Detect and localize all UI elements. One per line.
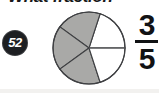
worksheet-question-clip: What fraction 52 3 5	[0, 0, 159, 93]
fraction-denominator: 5	[134, 45, 159, 73]
fraction-numerator: 3	[134, 11, 159, 39]
question-number-label: 52	[3, 31, 27, 55]
pie-chart	[52, 11, 126, 85]
question-number-badge: 52	[3, 31, 27, 55]
answer-fraction: 3 5	[134, 11, 159, 73]
pie-chart-svg	[52, 11, 126, 85]
scan-edge-artifact	[0, 89, 159, 93]
page-title: What fraction	[8, 0, 159, 6]
